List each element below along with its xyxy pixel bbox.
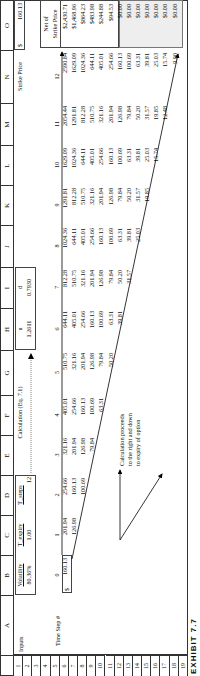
arrows-overlay (0, 0, 188, 676)
annotation-down-arrow-icon (120, 474, 162, 540)
diagonal-arrow-icon (72, 54, 178, 559)
exhibit-caption: EXHIBIT 7.7 (189, 606, 200, 674)
spreadsheet: ABCDEFGHIJKLMNO 123456789101112131415161… (0, 0, 188, 676)
